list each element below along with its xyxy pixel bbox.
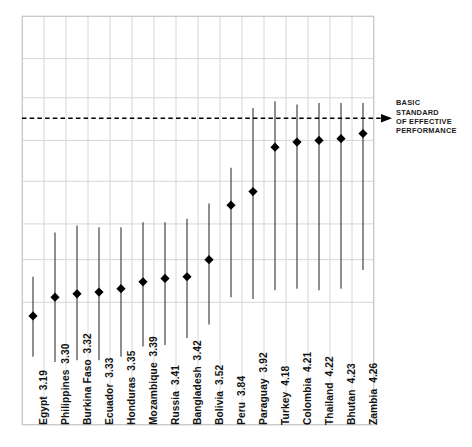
data-point-marker	[116, 284, 125, 293]
tick-label-value: 4.26	[368, 363, 379, 389]
data-point-marker	[314, 136, 323, 145]
data-point-marker	[138, 277, 147, 286]
tick-label-name: Turkey	[280, 392, 291, 425]
tick-label-value: 3.84	[236, 376, 247, 402]
tick-label-name: Bolivia	[214, 391, 225, 425]
tick-label-name: Philippines	[60, 370, 71, 425]
tick-label-name: Honduras	[126, 377, 137, 425]
data-point-marker	[182, 272, 191, 281]
tick-label-value: 4.22	[324, 356, 335, 382]
reference-arrow-icon	[381, 114, 392, 122]
tick-label-thailand: Thailand 4.22	[324, 356, 335, 425]
annotation-line-3: OF EFFECTIVE	[396, 117, 457, 126]
tick-label-value: 3.42	[192, 340, 203, 366]
tick-label-value: 3.30	[60, 343, 71, 369]
tick-label-russia: Russia 3.41	[170, 365, 181, 425]
data-point-marker	[28, 311, 37, 320]
tick-label-egypt: Egypt 3.19	[38, 370, 49, 425]
tick-label-paraguay: Paraguay 3.92	[258, 352, 269, 425]
data-point-marker	[226, 201, 235, 210]
tick-label-name: Egypt	[38, 396, 49, 425]
tick-label-name: Mozambique	[148, 362, 159, 425]
tick-label-value: 3.19	[38, 370, 49, 396]
tick-label-philippines: Philippines 3.30	[60, 343, 71, 425]
tick-label-name: Bhutan	[346, 389, 357, 425]
tick-label-name: Bangladesh	[192, 366, 203, 425]
data-point-marker	[336, 134, 345, 143]
tick-label-value: 4.18	[280, 366, 291, 392]
tick-label-name: Burkina Faso	[82, 359, 93, 425]
tick-label-name: Thailand	[324, 382, 335, 425]
tick-label-value: 3.52	[214, 365, 225, 391]
tick-label-value: 3.92	[258, 352, 269, 378]
tick-label-value: 3.35	[126, 351, 137, 377]
tick-label-zambia: Zambia 4.26	[368, 363, 379, 425]
annotation-line-2: STANDARD	[396, 108, 457, 117]
data-point-marker	[204, 255, 213, 264]
reference-line-annotation: BASICSTANDARDOF EFFECTIVEPERFORMANCE	[396, 98, 457, 136]
tick-label-burkina-faso: Burkina Faso 3.32	[82, 333, 93, 425]
tick-label-value: 3.41	[170, 365, 181, 391]
tick-label-bhutan: Bhutan 4.23	[346, 363, 357, 425]
tick-label-mozambique: Mozambique 3.39	[148, 336, 159, 425]
tick-label-colombia: Colombia 4.21	[302, 352, 313, 425]
tick-label-value: 4.23	[346, 363, 357, 389]
tick-label-name: Colombia	[302, 378, 313, 425]
data-point-marker	[270, 143, 279, 152]
tick-label-bangladesh: Bangladesh 3.42	[192, 340, 203, 425]
data-point-marker	[248, 187, 257, 196]
tick-label-name: Ecuador	[104, 384, 115, 425]
data-point-marker	[72, 289, 81, 298]
data-point-marker	[292, 138, 301, 147]
tick-label-value: 3.33	[104, 357, 115, 383]
tick-label-name: Peru	[236, 402, 247, 425]
tick-label-value: 3.32	[82, 333, 93, 359]
tick-label-turkey: Turkey 4.18	[280, 366, 291, 425]
chart-container: BASICSTANDARDOF EFFECTIVEPERFORMANCE Egy…	[0, 0, 472, 447]
tick-label-peru: Peru 3.84	[236, 376, 247, 425]
data-point-marker	[160, 274, 169, 283]
tick-label-name: Paraguay	[258, 378, 269, 425]
tick-label-value: 4.21	[302, 352, 313, 378]
tick-label-name: Zambia	[368, 389, 379, 425]
tick-label-honduras: Honduras 3.35	[126, 351, 137, 425]
tick-label-bolivia: Bolivia 3.52	[214, 365, 225, 425]
tick-label-name: Russia	[170, 391, 181, 425]
data-point-marker	[94, 287, 103, 296]
data-point-marker	[50, 293, 59, 302]
annotation-line-4: PERFORMANCE	[396, 126, 457, 135]
data-point-marker	[358, 129, 367, 138]
tick-label-ecuador: Ecuador 3.33	[104, 357, 115, 425]
reference-line	[22, 114, 392, 122]
tick-label-value: 3.39	[148, 336, 159, 362]
annotation-line-1: BASIC	[396, 98, 457, 107]
